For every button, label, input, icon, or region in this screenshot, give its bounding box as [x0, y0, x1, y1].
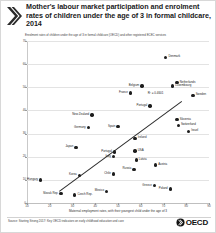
data-point[interactable] — [153, 184, 156, 187]
data-point[interactable] — [187, 130, 190, 133]
data-point[interactable] — [177, 124, 180, 127]
data-point[interactable] — [129, 91, 132, 94]
y-axis-tick-mark — [25, 87, 27, 88]
x-axis-tick-mark — [118, 203, 119, 205]
data-point-label: Japan — [65, 146, 73, 149]
data-point-label: Spain — [108, 125, 115, 128]
data-point-label: Slovak Rep. — [43, 192, 59, 195]
oecd-logo-icon — [176, 218, 185, 227]
data-point-label: Poland — [159, 188, 168, 191]
y-axis-tick-mark — [25, 157, 27, 158]
grid-line — [27, 64, 209, 65]
data-point-label: France — [119, 91, 128, 94]
x-axis-title: Maternal employment rates, with their yo… — [27, 210, 209, 214]
x-axis-tick-label: 50 — [111, 205, 125, 208]
x-axis-tick-mark — [164, 203, 165, 205]
oecd-logo-text: OECD — [186, 219, 208, 227]
page-title: Mother's labour market participation and… — [26, 3, 211, 28]
data-point-label: Denmark — [168, 56, 180, 59]
data-point[interactable] — [105, 190, 108, 193]
data-point-label: Korea — [69, 174, 77, 177]
source-note: Source: Starting Strong 2017: Key OECD i… — [8, 220, 158, 224]
data-point[interactable] — [113, 150, 116, 153]
data-point[interactable] — [135, 158, 138, 161]
data-point-label: Latvia — [139, 159, 147, 162]
data-point[interactable] — [112, 172, 115, 175]
data-point[interactable] — [39, 178, 42, 181]
x-axis-tick-mark — [186, 203, 187, 205]
x-axis-tick-label: 40 — [88, 205, 102, 208]
grid-line — [27, 180, 209, 181]
data-point[interactable] — [133, 149, 136, 152]
data-point[interactable] — [191, 94, 194, 97]
data-point-label: Czech Rep. — [77, 193, 92, 196]
r-squared-label: R² = 0.4601 — [148, 92, 164, 95]
x-axis-tick-mark — [209, 203, 210, 205]
y-axis-tick-mark — [25, 41, 27, 42]
data-point-label: Greece — [142, 184, 151, 187]
data-point[interactable] — [140, 84, 143, 87]
page-title-wrap: Mother's labour market participation and… — [26, 3, 216, 28]
grid-line — [27, 110, 209, 111]
data-point-label: Portugal — [136, 104, 147, 107]
data-point-label: Chile — [104, 172, 111, 175]
data-point-label: Germany — [74, 126, 86, 129]
data-point-label: Belgium — [129, 85, 139, 88]
data-point-label: Austria — [158, 163, 167, 166]
chart-subtitle: Enrolment rates of children under the ag… — [25, 33, 211, 37]
x-axis-tick-label: 30 — [66, 205, 80, 208]
x-axis-tick-mark — [141, 203, 142, 205]
data-point[interactable] — [148, 104, 151, 107]
x-axis-tick-label: 80 — [179, 205, 193, 208]
data-point-label: USA — [138, 149, 144, 152]
data-point[interactable] — [132, 168, 135, 171]
data-point-label: Luxembourg — [175, 85, 191, 88]
x-axis-tick-label: 90 — [202, 205, 216, 208]
x-axis-tick-label: 70 — [157, 205, 171, 208]
data-point-label: Mexico — [95, 190, 104, 193]
slide-header: Mother's labour market participation and… — [1, 1, 216, 31]
x-axis-tick-label: 10 — [20, 205, 34, 208]
data-point-label: Russia — [122, 168, 131, 171]
x-axis-tick-mark — [27, 203, 28, 205]
data-point[interactable] — [175, 118, 178, 121]
data-point[interactable] — [133, 137, 136, 140]
oecd-logo: OECD — [176, 218, 208, 227]
scatter-plot: 010203040506070 102030405060708090 Denma… — [27, 41, 209, 203]
data-point-label: Italy — [106, 155, 111, 158]
data-point-label: Switzerland — [181, 124, 196, 127]
data-point[interactable] — [74, 146, 77, 149]
data-point[interactable] — [169, 187, 172, 190]
data-point-label: Slovenia — [180, 118, 191, 121]
y-axis-tick-mark — [25, 110, 27, 111]
data-point[interactable] — [87, 126, 90, 129]
data-point[interactable] — [78, 174, 81, 177]
x-axis-tick-label: 60 — [134, 205, 148, 208]
y-axis-tick-mark — [25, 134, 27, 135]
data-point-label: New Zealand — [72, 113, 89, 116]
x-axis-tick-mark — [50, 203, 51, 205]
data-point[interactable] — [116, 125, 119, 128]
data-point[interactable] — [112, 155, 115, 158]
data-point-label: Sweden — [196, 94, 206, 97]
data-point[interactable] — [73, 193, 76, 196]
y-axis-tick-mark — [25, 64, 27, 65]
data-point-label: Israel — [191, 130, 198, 133]
data-point-label: Hungary — [27, 178, 38, 181]
data-point-label: Ireland — [138, 137, 147, 140]
grid-line — [27, 134, 209, 135]
data-point[interactable] — [164, 56, 167, 59]
x-axis-tick-mark — [95, 203, 96, 205]
data-point[interactable] — [59, 192, 62, 195]
grid-line — [27, 157, 209, 158]
double-chevron-right-icon — [5, 4, 23, 28]
x-axis-tick-label: 20 — [43, 205, 57, 208]
data-point[interactable] — [90, 113, 93, 116]
data-point[interactable] — [154, 163, 157, 166]
slide-root: Mother's labour market participation and… — [0, 0, 216, 233]
x-axis-tick-mark — [73, 203, 74, 205]
grid-line — [27, 41, 209, 42]
